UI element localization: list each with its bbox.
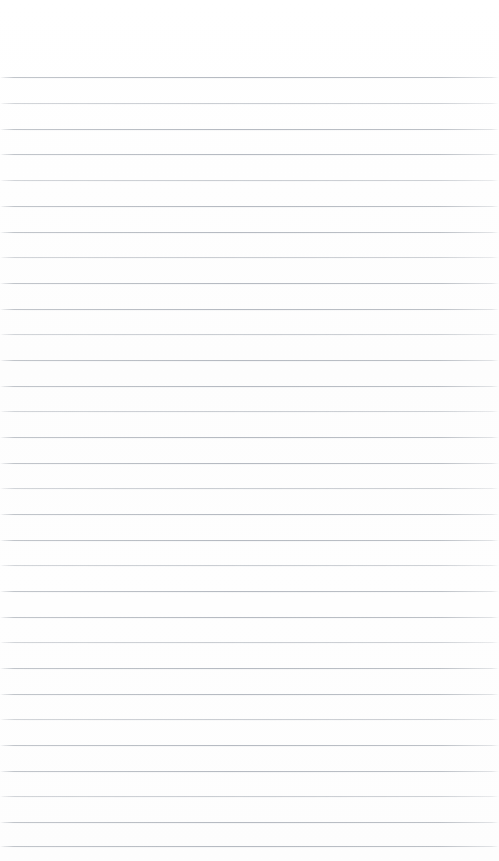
ruled-line [0,846,499,847]
ruled-line [0,232,499,233]
ruled-line [0,540,499,541]
ruled-line [0,257,499,258]
ruled-line [0,745,499,746]
ruled-line [0,514,499,515]
ruled-line [0,283,499,284]
ruled-line [0,103,499,104]
ruled-line [0,360,499,361]
ruled-line [0,206,499,207]
ruled-line [0,386,499,387]
ruled-line [0,694,499,695]
ruled-line [0,719,499,720]
ruled-line [0,822,499,823]
ruled-line [0,154,499,155]
ruled-line [0,463,499,464]
ruled-line [0,771,499,772]
ruled-line [0,617,499,618]
ruled-line [0,437,499,438]
ruled-line [0,642,499,643]
ruled-line [0,565,499,566]
ruled-line [0,334,499,335]
ruled-line [0,309,499,310]
ruled-line [0,668,499,669]
ruled-line [0,77,499,78]
ruled-line [0,796,499,797]
ruled-line [0,129,499,130]
lined-paper-page [0,0,499,861]
ruled-line [0,180,499,181]
ruled-line-layer [0,0,499,861]
ruled-line [0,591,499,592]
ruled-line [0,411,499,412]
ruled-line [0,488,499,489]
